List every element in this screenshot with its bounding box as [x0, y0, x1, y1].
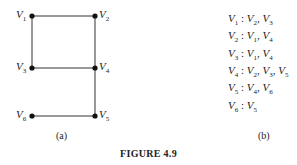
vertex-V2	[92, 13, 97, 18]
adjacency-row-V5: V5 : V4, V6	[228, 81, 273, 96]
vertex-label-V6: V6	[16, 109, 26, 125]
vertex-V4	[92, 65, 97, 70]
panel-b-caption: (b)	[258, 130, 270, 141]
panel-a-caption: (a)	[56, 130, 67, 141]
adjacency-row-V6: V6 : V5	[228, 99, 257, 114]
vertex-label-V3: V3	[16, 61, 26, 77]
vertex-label-V4: V4	[99, 61, 109, 77]
adjacency-row-V4: V4 : V2, V3, V5	[228, 64, 289, 79]
vertex-label-V2: V2	[99, 9, 109, 25]
vertex-V6	[29, 113, 34, 118]
adjacency-row-V2: V2 : V1, V4	[228, 29, 273, 44]
vertex-V5	[92, 113, 97, 118]
vertex-label-V5: V5	[99, 109, 109, 125]
vertex-V1	[29, 13, 34, 18]
adjacency-row-V3: V3 : V1, V4	[228, 47, 273, 62]
vertex-V3	[29, 65, 34, 70]
vertex-label-V1: V1	[16, 9, 26, 25]
adjacency-row-V1: V1 : V2, V3	[228, 12, 273, 27]
figure-title: FIGURE 4.9	[0, 148, 297, 159]
